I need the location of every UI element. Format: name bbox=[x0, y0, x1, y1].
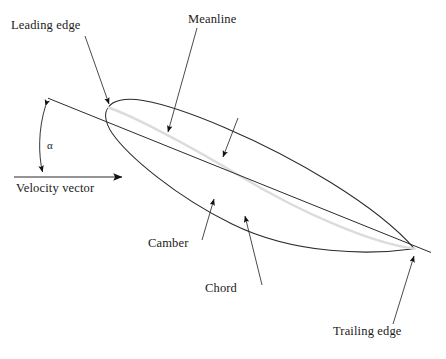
leading-edge-leader bbox=[85, 36, 109, 104]
chord-leader bbox=[245, 216, 262, 285]
label-velocity-vector: Velocity vector bbox=[16, 182, 94, 195]
label-leading-edge: Leading edge bbox=[11, 19, 80, 32]
airfoil-figure bbox=[0, 0, 446, 359]
upper-surface-leader bbox=[223, 118, 238, 157]
airfoil-diagram: Leading edge Meanline α Velocity vector … bbox=[0, 0, 446, 359]
trailing-edge-leader bbox=[393, 256, 414, 324]
meanline-leader bbox=[168, 28, 197, 132]
label-angle-of-attack-alpha: α bbox=[47, 140, 53, 151]
angle-of-attack-arc bbox=[40, 106, 46, 172]
label-camber: Camber bbox=[148, 237, 188, 250]
label-chord: Chord bbox=[205, 282, 237, 295]
chord-line bbox=[48, 98, 431, 252]
airfoil-upper-surface bbox=[109, 99, 415, 248]
label-trailing-edge: Trailing edge bbox=[333, 325, 402, 338]
camber-leader bbox=[202, 199, 214, 240]
airfoil-lower-surface bbox=[106, 108, 415, 253]
label-meanline: Meanline bbox=[188, 13, 236, 26]
